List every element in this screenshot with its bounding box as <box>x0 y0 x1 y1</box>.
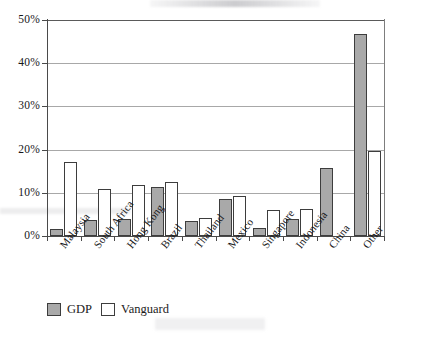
bar-gdp-singapore <box>253 228 266 236</box>
bar-group <box>47 20 81 236</box>
legend-swatch-vanguard <box>101 303 115 316</box>
bar-group <box>182 20 216 236</box>
x-axis-tick-mark <box>148 236 149 241</box>
plot-right-border <box>384 19 385 237</box>
chart-legend: GDPVanguard <box>47 303 169 316</box>
x-axis-tick-mark <box>350 236 351 241</box>
legend-label-vanguard: Vanguard <box>121 303 169 316</box>
legend-item-gdp[interactable]: GDP <box>47 303 92 316</box>
plot-area <box>47 20 384 236</box>
x-axis-tick-mark <box>182 236 183 241</box>
x-axis-tick-mark <box>114 236 115 241</box>
y-axis-tick-label: 0% <box>0 230 40 242</box>
x-axis-tick-mark <box>317 236 318 241</box>
x-axis-tick-mark <box>384 236 385 241</box>
legend-label-gdp: GDP <box>67 303 92 316</box>
bar-gdp-thailand <box>185 221 198 236</box>
bar-group <box>317 20 351 236</box>
x-axis-tick-mark <box>81 236 82 241</box>
y-axis-tick-label: 30% <box>0 100 40 112</box>
bar-group <box>216 20 250 236</box>
bar-group <box>249 20 283 236</box>
legend-item-vanguard[interactable]: Vanguard <box>101 303 169 316</box>
bar-group <box>81 20 115 236</box>
bar-gdp-china <box>320 168 333 236</box>
y-axis-tick-label: 50% <box>0 14 40 26</box>
y-axis-tick-label: 10% <box>0 187 40 199</box>
bar-group <box>350 20 384 236</box>
y-axis-tick-label: 40% <box>0 57 40 69</box>
legend-swatch-gdp <box>47 303 61 316</box>
x-axis-tick-mark <box>216 236 217 241</box>
bar-group <box>283 20 317 236</box>
grouped-bar-chart: 50%40%30%20%10%0% MalaysiaSouth AfricaHo… <box>0 0 435 343</box>
x-axis-tick-mark <box>249 236 250 241</box>
bar-gdp-other <box>354 34 367 236</box>
x-axis-tick-mark <box>47 236 48 241</box>
bar-gdp-malaysia <box>50 229 63 236</box>
y-axis-tick-label: 20% <box>0 144 40 156</box>
x-axis-tick-mark <box>283 236 284 241</box>
